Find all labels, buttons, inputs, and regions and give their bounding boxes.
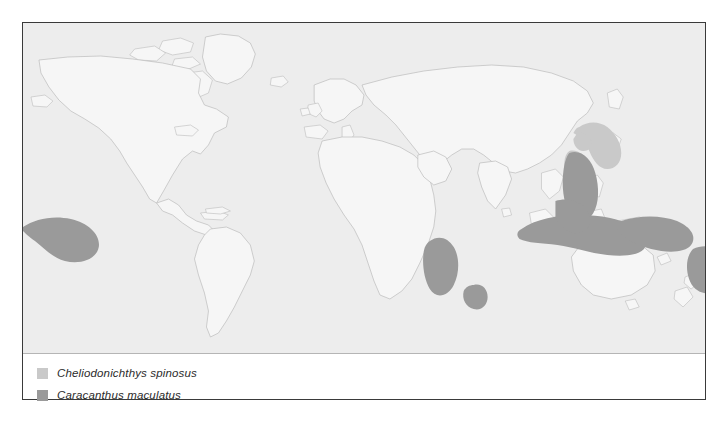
world-map: .land{fill:#f6f6f6;stroke:#bcbcbc;stroke… [23,23,705,353]
figure-panel: .land{fill:#f6f6f6;stroke:#bcbcbc;stroke… [22,22,706,400]
land-sri-lanka [502,208,512,217]
legend-label-species-2: Caracanthus maculatus [57,389,181,401]
legend-label-species-1: Cheliodonichthys spinosus [57,367,197,379]
legend-item: Cheliodonichthys spinosus [37,364,705,382]
legend-panel: Cheliodonichthys spinosus Caracanthus ma… [23,354,705,399]
legend-swatch-light [37,368,48,379]
map-canvas: .land{fill:#f6f6f6;stroke:#bcbcbc;stroke… [23,23,705,353]
legend-item: Caracanthus maculatus [37,386,705,404]
legend-swatch-dark [37,390,48,401]
